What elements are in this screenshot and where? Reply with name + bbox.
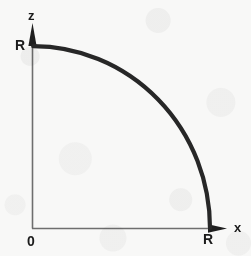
- diagram-canvas: [0, 0, 251, 256]
- quarter-circle-figure: z x R 0 R: [0, 0, 251, 256]
- origin-label: 0: [27, 234, 35, 248]
- x-radius-label: R: [203, 232, 213, 246]
- z-axis-arrowhead: [28, 23, 36, 46]
- quarter-circle-arc: [33, 46, 210, 228]
- z-axis-label: z: [28, 9, 35, 22]
- x-axis-label: x: [234, 221, 241, 234]
- z-radius-label: R: [15, 38, 25, 52]
